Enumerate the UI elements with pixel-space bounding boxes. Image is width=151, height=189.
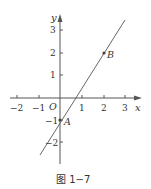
point-a-label: A [63,116,71,127]
x-tick-label: 3 [122,103,128,113]
y-tick-label: −1 [45,116,58,126]
x-axis-label: x [135,102,141,113]
x-tick-label: −1 [32,103,45,113]
point-b-marker [102,51,105,54]
y-tick-label: −2 [45,138,58,148]
y-axis-label: y [50,12,57,23]
line-ab [40,20,125,155]
y-axis-arrow-icon [58,14,63,22]
point-a-marker [58,118,61,121]
x-tick-label: 2 [101,103,107,113]
y-tick-label: 1 [50,70,56,80]
y-tick-label: 3 [50,25,56,35]
x-tick-label: −2 [10,103,23,113]
y-tick-label: 2 [50,48,56,58]
x-tick-label: 1 [79,103,85,113]
x-axis-arrow-icon [134,96,142,101]
figure-caption: 图 1−7 [56,174,90,185]
coordinate-figure: x y O −2 −1 1 2 3 3 2 1 −1 −2 A B 图 1−7 [0,0,151,189]
origin-label: O [49,101,57,112]
y-axis [58,14,64,164]
point-b-label: B [106,49,114,60]
